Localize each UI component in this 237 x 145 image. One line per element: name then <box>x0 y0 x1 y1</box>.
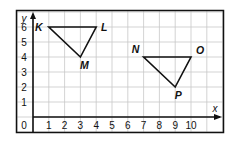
y-tick-label: 4 <box>21 52 27 63</box>
x-tick-label: 2 <box>62 120 68 131</box>
y-axis-arrow-icon <box>30 12 36 19</box>
tick-labels: 12345678910123456 <box>21 22 197 131</box>
triangles: KLMNOP <box>35 21 204 101</box>
x-tick-label: 4 <box>93 120 99 131</box>
vertex-label-n: N <box>132 43 140 55</box>
x-tick-label: 10 <box>185 120 197 131</box>
x-tick-label: 9 <box>172 120 178 131</box>
x-tick-label: 1 <box>46 120 52 131</box>
x-tick-label: 6 <box>125 120 131 131</box>
grid-lines <box>17 11 223 132</box>
y-tick-label: 3 <box>21 67 27 78</box>
vertex-label-l: L <box>101 21 107 33</box>
x-tick-label: 8 <box>157 120 163 131</box>
x-axis-arrow-icon <box>214 114 222 120</box>
x-tick-label: 5 <box>109 120 115 131</box>
y-tick-label: 2 <box>21 82 27 93</box>
y-tick-label: 5 <box>21 37 27 48</box>
x-tick-label: 7 <box>141 120 147 131</box>
vertex-label-m: M <box>80 59 89 71</box>
coordinate-grid-figure: 12345678910123456 KLMNOP x y 0 <box>0 0 237 145</box>
vertex-label-o: O <box>196 44 204 56</box>
origin-label: 0 <box>21 120 27 131</box>
outer-frame <box>17 11 224 133</box>
y-tick-label: 1 <box>21 97 27 108</box>
x-tick-label: 3 <box>78 120 84 131</box>
vertex-label-p: P <box>175 89 183 101</box>
y-axis-label: y <box>21 13 28 24</box>
x-axis-label: x <box>212 103 219 114</box>
